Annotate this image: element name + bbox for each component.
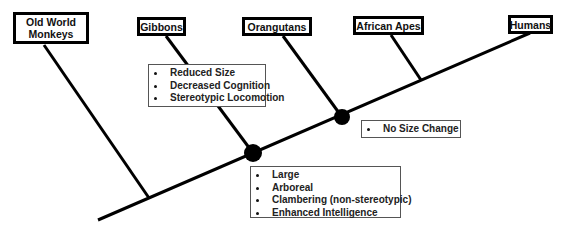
- trait-item: Reduced Size: [153, 67, 259, 80]
- taxon-humans: Humans: [508, 15, 553, 34]
- trait-item: Large: [255, 169, 394, 182]
- traits-african-human-node: No Size Change: [361, 120, 461, 138]
- taxon-label: Orangutans: [248, 21, 307, 33]
- branch-orangutans: [283, 36, 342, 117]
- taxon-label: Old World Monkeys: [23, 16, 79, 40]
- branch-old-world-monkeys: [44, 45, 149, 198]
- taxon-label: Humans: [510, 19, 551, 31]
- taxon-label: Gibbons: [140, 21, 183, 33]
- branch-african-apes: [391, 35, 421, 80]
- traits-great-ape-node: Large Arboreal Clambering (non-stereotyp…: [250, 166, 401, 218]
- taxon-orangutans: Orangutans: [242, 17, 312, 36]
- node-african-human: [334, 109, 350, 125]
- taxon-old-world-monkeys: Old World Monkeys: [13, 12, 89, 44]
- taxon-african-apes: African Apes: [353, 16, 424, 35]
- trait-item: Enhanced Intelligence: [255, 207, 394, 220]
- traits-gibbons: Reduced Size Decreased Cognition Stereot…: [148, 64, 266, 107]
- trait-item: Clambering (non-stereotypic): [255, 194, 394, 207]
- trait-item: Decreased Cognition: [153, 80, 259, 93]
- node-great-apes: [244, 144, 262, 162]
- trait-item: Stereotypic Locomotion: [153, 92, 259, 105]
- trait-item: No Size Change: [366, 123, 454, 136]
- taxon-gibbons: Gibbons: [137, 17, 186, 36]
- taxon-label: African Apes: [356, 20, 420, 32]
- trait-item: Arboreal: [255, 182, 394, 195]
